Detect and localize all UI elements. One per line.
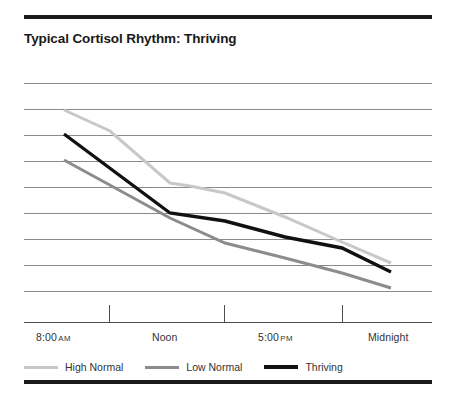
x-tick-label-8am: 8:00AM <box>36 331 71 343</box>
legend-label: Low Normal <box>186 361 242 373</box>
legend-swatch-icon <box>264 365 298 369</box>
legend-label: High Normal <box>65 361 123 373</box>
x-axis-ticks <box>110 305 343 322</box>
legend-item-thriving[interactable]: Thriving <box>264 361 342 373</box>
legend-swatch-icon <box>145 366 179 369</box>
x-axis-labels: 8:00AM Noon 5:00PM Midnight <box>0 331 452 347</box>
x-tick-label-midnight: Midnight <box>368 331 410 343</box>
x-tick-label-text: 8:00 <box>36 331 57 343</box>
legend-item-low-normal[interactable]: Low Normal <box>145 361 242 373</box>
bottom-rule <box>24 380 432 384</box>
x-tick-label-noon: Noon <box>152 331 179 343</box>
chart-figure: Typical Cortisol Rhythm: Thriving <box>0 0 452 405</box>
x-tick-label-suffix: PM <box>280 334 293 343</box>
series-line-thriving <box>64 134 391 272</box>
x-tick-label-text: Midnight <box>368 331 409 343</box>
legend-item-high-normal[interactable]: High Normal <box>24 361 123 373</box>
legend-label: Thriving <box>305 361 342 373</box>
chart-legend: High Normal Low Normal Thriving <box>24 359 365 375</box>
series-line-low-normal <box>64 160 391 288</box>
x-tick-label-suffix: AM <box>58 334 71 343</box>
legend-swatch-icon <box>24 366 58 369</box>
x-tick-label-text: 5:00 <box>258 331 279 343</box>
x-tick-label-5pm: 5:00PM <box>258 331 293 343</box>
x-tick-label-text: Noon <box>152 331 178 343</box>
